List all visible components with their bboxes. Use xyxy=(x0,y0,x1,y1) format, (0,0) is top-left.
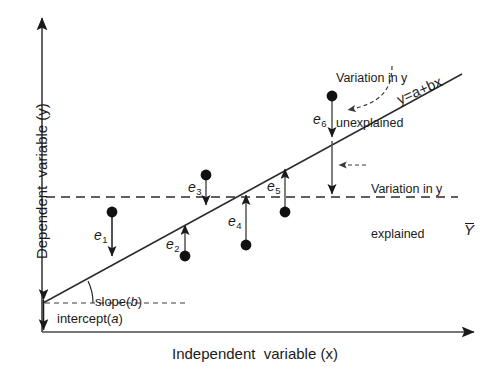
residual-e4 xyxy=(241,195,252,250)
annotation-unexplained: Variation in y unexplained xyxy=(336,40,407,162)
data-point xyxy=(241,240,252,251)
residual-e1 xyxy=(107,207,118,256)
residual-label-e6: e6 xyxy=(313,111,326,128)
annotation-explained-line2: explained xyxy=(371,227,442,242)
slope-label: slope(b) xyxy=(95,294,142,310)
data-point xyxy=(201,170,212,181)
residual-label-e3: e3 xyxy=(188,179,201,196)
residual-e5 xyxy=(280,169,291,217)
intercept-label: intercept(a) xyxy=(57,311,123,327)
regression-diagram: Dependent variable (y) Independent varia… xyxy=(0,0,492,375)
residual-e3 xyxy=(201,170,212,205)
annotation-explained: Variation in y explained xyxy=(371,151,442,273)
annotation-explained-line1: Variation in y xyxy=(371,182,442,197)
residual-e2 xyxy=(180,225,191,261)
mean-y-label: Y xyxy=(464,186,481,258)
y-axis-title: Dependent variable (y) xyxy=(33,76,51,286)
residual-label-e2: e2 xyxy=(166,236,179,253)
annotation-unexplained-line1: Variation in y xyxy=(336,71,407,86)
data-point xyxy=(180,251,191,262)
data-point xyxy=(280,207,291,218)
data-point xyxy=(107,207,118,218)
annotation-unexplained-line2: unexplained xyxy=(336,116,407,131)
residual-label-e5: e5 xyxy=(267,178,280,195)
residual-label-e4: e4 xyxy=(228,213,241,230)
residual-label-e1: e1 xyxy=(94,227,107,244)
slope-angle-arc xyxy=(88,281,93,303)
x-axis-title: Independent variable (x) xyxy=(172,345,338,363)
